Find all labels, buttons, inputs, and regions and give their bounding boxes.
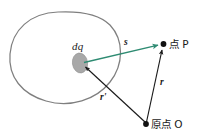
- charge-element-patch: [71, 52, 89, 74]
- origin-o-dot: [143, 121, 149, 127]
- separation-vector-arrow: [84, 45, 158, 62]
- point-p-label: 点 P: [169, 39, 189, 50]
- physics-vector-diagram: dq s r' r 点 P 原点 O: [0, 0, 201, 140]
- charge-element-label: dq: [72, 41, 83, 52]
- field-position-vector-label: r: [160, 78, 164, 88]
- source-position-vector-arrow: [86, 67, 146, 122]
- point-p-dot: [161, 41, 167, 47]
- separation-vector-label: s: [124, 38, 128, 48]
- origin-o-label: 原点 O: [151, 119, 183, 130]
- source-position-vector-label: r': [100, 93, 106, 103]
